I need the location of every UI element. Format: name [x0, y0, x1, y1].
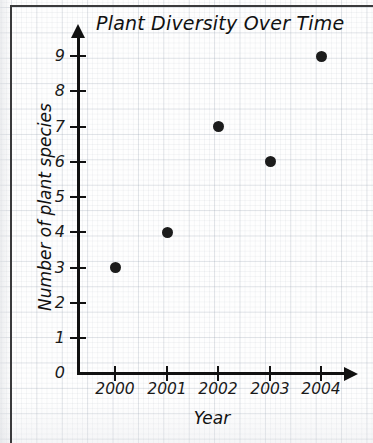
x-axis-tick-label: 2000 — [88, 380, 142, 398]
x-axis-tick — [269, 366, 271, 381]
y-axis-tick — [70, 55, 86, 57]
x-axis-tick — [217, 366, 219, 381]
y-axis-tick — [70, 267, 86, 269]
x-axis-tick-label: 2001 — [140, 380, 194, 398]
x-axis-tick-label: 2003 — [243, 380, 297, 398]
data-point — [110, 262, 121, 273]
x-axis-title: Year — [77, 408, 347, 428]
y-axis-tick — [70, 231, 86, 233]
x-axis-tick — [114, 366, 116, 381]
x-axis-tick-label: 2004 — [294, 380, 348, 398]
x-axis-arrow-icon — [344, 367, 358, 381]
y-axis-arrow-icon — [71, 24, 85, 38]
data-point — [316, 51, 327, 62]
data-point — [213, 121, 224, 132]
chart-title: Plant Diversity Over Time — [96, 12, 344, 34]
plot-area: Plant Diversity Over Time 9 8 7 6 5 4 3 … — [0, 0, 373, 443]
y-axis-tick — [70, 302, 86, 304]
y-axis-tick — [70, 161, 86, 163]
graph-paper-scatter-plot: Plant Diversity Over Time 9 8 7 6 5 4 3 … — [0, 0, 373, 443]
y-axis-line — [77, 33, 80, 375]
x-axis-tick — [166, 366, 168, 381]
y-axis-tick — [70, 90, 86, 92]
y-axis-tick-label: 0 — [43, 363, 65, 382]
y-axis-tick — [70, 337, 86, 339]
y-axis-title: Number of plant species — [35, 77, 55, 337]
x-axis-tick-label: 2002 — [191, 380, 245, 398]
y-axis-tick — [70, 196, 86, 198]
data-point — [265, 156, 276, 167]
y-axis-tick — [70, 126, 86, 128]
y-axis-tick-label: 9 — [43, 46, 65, 65]
data-point — [162, 227, 173, 238]
x-axis-tick — [320, 366, 322, 381]
x-axis-line — [77, 372, 347, 375]
